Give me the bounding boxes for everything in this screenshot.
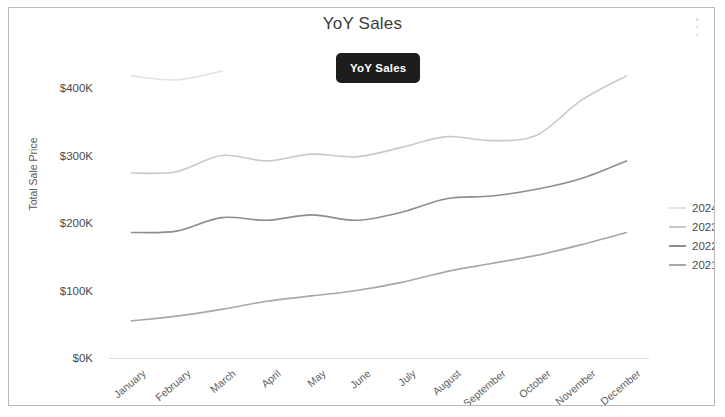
legend-item-label: 2021	[692, 259, 715, 271]
chart-card: YoY Sales Total Sale Price $0K$100K$200K…	[8, 7, 715, 406]
x-axis-tick-label: January	[97, 367, 148, 406]
x-axis-tick-label: November	[547, 367, 598, 406]
x-axis-tick-label: December	[592, 367, 643, 406]
legend-swatch-icon	[669, 226, 686, 228]
legend-swatch-icon	[669, 264, 686, 266]
x-axis-tick-label: June	[322, 367, 373, 406]
legend-item-2021[interactable]: 2021	[669, 255, 715, 274]
legend-item-2024[interactable]: 2024	[669, 198, 715, 217]
x-axis-tick-label: February	[142, 367, 193, 406]
x-axis-tick-label: August	[412, 367, 463, 406]
legend-item-label: 2024	[692, 202, 715, 214]
chart-legend: 2024202320222021	[669, 198, 715, 274]
legend-swatch-icon	[669, 207, 686, 209]
x-axis-tick-label: July	[367, 367, 418, 406]
x-axis-tick-label: May	[277, 367, 328, 406]
legend-item-2022[interactable]: 2022	[669, 236, 715, 255]
legend-item-label: 2022	[692, 240, 715, 252]
chart-tooltip: YoY Sales	[336, 53, 420, 83]
x-axis-tick-label: October	[502, 367, 553, 406]
legend-item-2023[interactable]: 2023	[669, 217, 715, 236]
x-axis-tick-label: September	[457, 367, 508, 406]
legend-swatch-icon	[669, 245, 686, 247]
x-axis-tick-label: April	[232, 367, 283, 406]
x-axis-tick-label: March	[187, 367, 238, 406]
legend-item-label: 2023	[692, 221, 715, 233]
